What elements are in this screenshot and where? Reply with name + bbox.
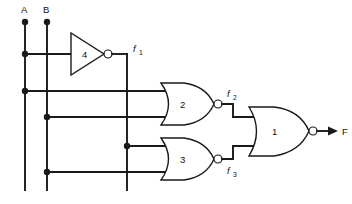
gate-1-label: 1 xyxy=(272,126,277,137)
gate-3-label: 3 xyxy=(180,154,185,165)
input-rail-a xyxy=(22,19,28,190)
signal-label-f1-sub: 1 xyxy=(139,49,143,56)
output-wire-f xyxy=(317,127,338,136)
wire-b-to-gate2 xyxy=(44,114,168,120)
input-terminal-a-dot xyxy=(22,19,28,25)
input-rail-b xyxy=(44,19,50,190)
input-label-b: B xyxy=(43,4,49,15)
output-label-f: F xyxy=(342,126,348,137)
signal-label-f2-sub: 2 xyxy=(233,94,237,101)
junction-dot-a-inverter xyxy=(22,51,28,57)
signal-label-f1-base: f xyxy=(133,43,137,54)
input-label-a: A xyxy=(21,4,28,15)
circuit-diagram-canvas: 4 2 xyxy=(0,0,352,204)
gate-1-nor[interactable]: 1 xyxy=(249,107,317,156)
gate-4-label: 4 xyxy=(82,49,87,60)
gate-2-nor[interactable]: 2 xyxy=(161,83,222,125)
gate-4-inverter[interactable]: 4 xyxy=(71,33,112,75)
output-arrow-icon xyxy=(328,127,338,136)
wire-b-to-gate3 xyxy=(44,169,168,175)
junction-dot-a-gate2 xyxy=(22,88,28,94)
signal-label-f3-sub: 3 xyxy=(233,171,237,178)
signal-label-f2-base: f xyxy=(227,88,231,99)
logic-circuit-svg: 4 2 xyxy=(0,0,352,204)
signal-label-f2: f 2 xyxy=(227,88,237,101)
gate-2-label: 2 xyxy=(180,99,185,110)
signal-label-f3-base: f xyxy=(227,165,231,176)
signal-label-f3: f 3 xyxy=(227,165,237,178)
gate-3-nor[interactable]: 3 xyxy=(161,138,222,180)
wire-f1 xyxy=(112,54,130,190)
input-terminal-b-dot xyxy=(44,19,50,25)
junction-dot-b-gate3 xyxy=(44,169,50,175)
signal-label-f1: f 1 xyxy=(133,43,143,56)
wire-a-to-gate2 xyxy=(22,88,168,94)
junction-dot-b-gate2 xyxy=(44,114,50,120)
